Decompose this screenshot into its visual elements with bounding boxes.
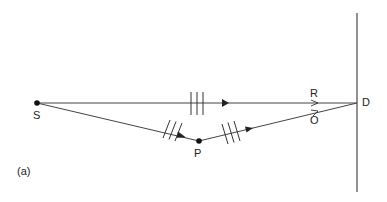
point-s-dot (34, 100, 40, 106)
ray-p-to-d-wavefront-marks (222, 121, 240, 144)
label-d: D (362, 97, 370, 108)
ray-s-to-p-line (37, 103, 199, 141)
label-s: S (33, 110, 40, 121)
panel-label: (a) (17, 166, 30, 177)
point-p-dot (196, 138, 202, 144)
label-o: O (310, 115, 319, 126)
label-r: R (310, 88, 318, 99)
ray-p-to-d-arrow-icon (245, 127, 253, 133)
ray-p-to-d-line (199, 103, 357, 141)
label-p: P (194, 148, 201, 159)
ray-s-to-p-wavefront-marks (163, 120, 182, 141)
direct-ray-arrow-icon (222, 99, 229, 107)
ray-diagram (0, 0, 387, 202)
